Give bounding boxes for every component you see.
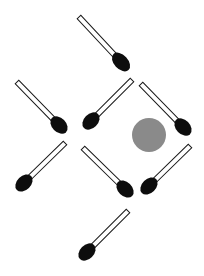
match-stick-body	[27, 141, 67, 180]
matchstick-2[interactable]	[12, 77, 71, 137]
puzzle-board	[0, 0, 204, 276]
matchstick-6[interactable]	[78, 143, 137, 201]
match-stick-body	[77, 15, 118, 59]
match-stick-body	[152, 144, 192, 183]
match-stick-body	[15, 80, 56, 122]
matchstick-3[interactable]	[79, 75, 137, 133]
matchstick-5[interactable]	[12, 138, 70, 195]
match-stick-body	[89, 209, 129, 249]
match-stick-body	[139, 82, 180, 124]
match-stick-body	[81, 146, 122, 186]
matchstick-8[interactable]	[75, 206, 133, 264]
matchstick-scene	[0, 0, 204, 276]
match-stick-body	[93, 78, 133, 118]
matchstick-1[interactable]	[74, 12, 134, 75]
target-circle[interactable]	[132, 118, 166, 152]
